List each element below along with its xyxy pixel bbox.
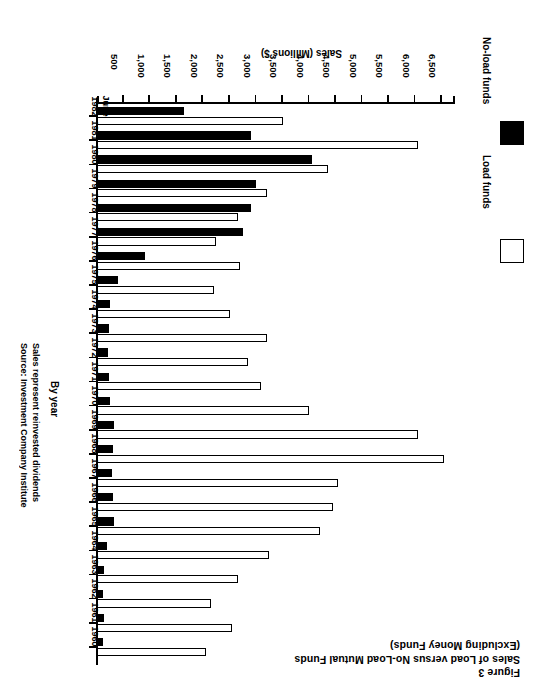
bar-noload-1981 (97, 131, 251, 139)
value-axis-left-cap (453, 96, 455, 104)
bar-group-1977 (97, 225, 455, 249)
bar-group-1963 (97, 562, 455, 586)
bar-load-1960 (97, 648, 206, 656)
value-label-6000: 6,000 (401, 54, 411, 78)
bar-load-1961 (97, 624, 232, 632)
bar-noload-1978 (97, 204, 251, 212)
value-label-2000: 2,000 (189, 54, 199, 78)
bar-load-1965 (97, 527, 320, 535)
bar-group-1965 (97, 514, 455, 538)
figure-page: Figure 3 Sales of Load versus No-Load Mu… (0, 0, 538, 693)
category-label-1960: 1960 (91, 627, 100, 647)
figure-label: Figure 3 (100, 666, 520, 679)
value-label-2500: 2,500 (216, 54, 226, 78)
bar-group-1982-June (97, 104, 455, 128)
value-label-1000: 1,000 (136, 54, 146, 78)
bar-load-1980 (97, 165, 328, 173)
legend: Load fundsNo-load funds (462, 13, 524, 263)
category-label-1965: 1965 (91, 506, 100, 526)
category-label-1970: 1970 (91, 386, 100, 406)
category-label-1972: 1972 (91, 337, 100, 357)
bar-group-1976 (97, 249, 455, 273)
bar-group-1974 (97, 297, 455, 321)
category-label-1967: 1967 (91, 458, 100, 478)
bar-load-1968 (97, 455, 444, 463)
value-tick (440, 95, 442, 102)
bar-group-1968 (97, 442, 455, 466)
bar-group-1980 (97, 152, 455, 176)
bar-load-1981 (97, 141, 418, 149)
value-tick (414, 95, 416, 102)
category-label-1981: 1981 (91, 120, 100, 140)
bar-noload-1979 (97, 180, 256, 188)
value-axis-title: Sales (Millions $) (261, 48, 342, 59)
bar-load-1975 (97, 286, 214, 294)
value-label-3000: 3,000 (242, 54, 252, 78)
value-label-5500: 5,500 (375, 54, 385, 78)
bar-group-1978 (97, 201, 455, 225)
bar-noload-1977 (97, 228, 243, 236)
legend-item-load-funds[interactable]: Load funds (462, 153, 524, 263)
category-label-1964: 1964 (91, 530, 100, 550)
bar-noload-1976 (97, 252, 145, 260)
value-tick (281, 95, 283, 102)
category-label-1979: 1979 (91, 168, 100, 188)
bar-noload-1980 (97, 155, 312, 163)
value-tick (361, 95, 363, 102)
category-label-1961: 1961 (91, 603, 100, 623)
value-label-6500: 6,500 (428, 54, 438, 78)
bar-load-1966 (97, 503, 333, 511)
bar-load-1972 (97, 358, 248, 366)
legend-label: No-load funds (481, 37, 492, 104)
bar-group-1966 (97, 490, 455, 514)
value-tick (228, 95, 230, 102)
bar-load-1963 (97, 575, 238, 583)
bar-group-1973 (97, 321, 455, 345)
category-label-1978: 1978 (91, 193, 100, 213)
value-label-500: 500 (110, 54, 120, 70)
black-square-icon (500, 121, 524, 145)
bar-group-1964 (97, 538, 455, 562)
category-label-1968: 1968 (91, 434, 100, 454)
value-label-1500: 1,500 (163, 54, 173, 78)
bar-load-1979 (97, 189, 267, 197)
category-label-June: June (102, 95, 111, 116)
legend-item-no-load-funds[interactable]: No-load funds (462, 35, 524, 145)
bar-load-1970 (97, 406, 309, 414)
value-label-5000: 5,000 (348, 54, 358, 78)
note-source: Source: Investment Company Institute (19, 343, 29, 508)
legend-label: Load funds (481, 155, 492, 209)
bar-group-1961 (97, 611, 455, 635)
category-label-1980: 1980 (91, 144, 100, 164)
plot-area: 1960196119621963196419651966196719681969… (97, 104, 455, 659)
category-label-1971: 1971 (91, 361, 100, 381)
bar-group-1979 (97, 176, 455, 200)
value-tick (308, 95, 310, 102)
value-tick (122, 95, 124, 102)
bar-group-1970 (97, 394, 455, 418)
category-axis-title: By year (49, 381, 60, 417)
bar-group-1972 (97, 345, 455, 369)
bar-load-1974 (97, 310, 230, 318)
bar-load-1969 (97, 430, 418, 438)
category-label-1969: 1969 (91, 410, 100, 430)
bar-load-1962 (97, 599, 211, 607)
bar-load-1978 (97, 213, 238, 221)
bar-group-1975 (97, 273, 455, 297)
category-label-1977: 1977 (91, 217, 100, 237)
note-reinvested-dividends: Sales represent reinvested dividends (31, 343, 41, 502)
category-label-1976: 1976 (91, 241, 100, 261)
bar-group-1967 (97, 466, 455, 490)
value-tick (334, 95, 336, 102)
bar-load-1967 (97, 479, 338, 487)
value-axis-line (97, 102, 455, 104)
value-tick (201, 95, 203, 102)
category-label-1973: 1973 (91, 313, 100, 333)
bar-load-1973 (97, 334, 267, 342)
bar-group-1962 (97, 587, 455, 611)
bar-load-1982-June (97, 117, 283, 125)
category-label-1975: 1975 (91, 265, 100, 285)
category-label-1966: 1966 (91, 482, 100, 502)
value-tick (148, 95, 150, 102)
category-label-1962: 1962 (91, 579, 100, 599)
